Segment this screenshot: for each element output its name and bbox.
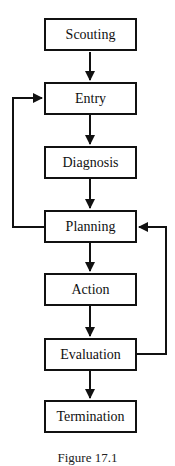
feedback-evaluation-to-planning bbox=[137, 227, 166, 354]
node-entry: Entry bbox=[44, 82, 137, 115]
node-action: Action bbox=[44, 273, 137, 306]
node-label: Evaluation bbox=[60, 347, 121, 363]
figure-caption: Figure 17.1 bbox=[0, 450, 175, 466]
node-evaluation: Evaluation bbox=[44, 338, 137, 371]
node-label: Planning bbox=[66, 219, 116, 235]
node-label: Scouting bbox=[66, 27, 116, 43]
node-label: Entry bbox=[75, 91, 106, 107]
node-termination: Termination bbox=[44, 400, 137, 433]
node-planning: Planning bbox=[44, 210, 137, 243]
node-diagnosis: Diagnosis bbox=[44, 146, 137, 179]
node-scouting: Scouting bbox=[44, 18, 137, 51]
node-label: Action bbox=[71, 282, 109, 298]
feedback-planning-to-entry bbox=[13, 98, 44, 227]
node-label: Termination bbox=[56, 409, 124, 425]
node-label: Diagnosis bbox=[63, 155, 119, 171]
